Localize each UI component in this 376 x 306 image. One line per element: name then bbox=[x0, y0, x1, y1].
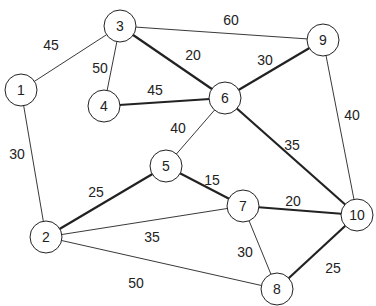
node-3: 3 bbox=[104, 10, 136, 42]
edge-weight-label: 35 bbox=[144, 229, 160, 245]
node-label: 1 bbox=[17, 82, 25, 98]
node-7: 7 bbox=[227, 190, 259, 222]
node-10: 10 bbox=[341, 199, 373, 231]
edge-4-6 bbox=[104, 98, 225, 106]
node-6: 6 bbox=[209, 82, 241, 114]
edge-weight-label: 30 bbox=[9, 146, 25, 162]
edge-weight-label: 30 bbox=[257, 52, 273, 68]
edge-weight-label: 40 bbox=[344, 107, 360, 123]
edge-6-9 bbox=[225, 40, 323, 98]
node-4: 4 bbox=[88, 90, 120, 122]
edge-weight-label: 50 bbox=[128, 275, 144, 291]
edge-weight-label: 45 bbox=[147, 82, 163, 98]
edge-weight-label: 15 bbox=[204, 172, 220, 188]
edge-labels-layer: 4530506020453040354025153550203025 bbox=[9, 12, 360, 291]
node-label: 9 bbox=[319, 32, 327, 48]
node-label: 2 bbox=[42, 229, 50, 245]
edge-weight-label: 50 bbox=[92, 60, 108, 76]
edge-3-9 bbox=[120, 26, 323, 40]
edge-weight-label: 60 bbox=[223, 12, 239, 28]
node-8: 8 bbox=[261, 273, 293, 305]
edge-weight-label: 20 bbox=[185, 47, 201, 63]
node-label: 8 bbox=[273, 281, 281, 297]
node-label: 5 bbox=[162, 158, 170, 174]
edges-layer bbox=[21, 26, 357, 289]
edge-1-3 bbox=[21, 26, 120, 90]
edge-3-6 bbox=[120, 26, 225, 98]
edge-1-2 bbox=[21, 90, 46, 237]
edge-weight-label: 30 bbox=[237, 244, 253, 260]
graph-canvas: 4530506020453040354025153550203025 12345… bbox=[0, 0, 376, 306]
edge-weight-label: 25 bbox=[325, 260, 341, 276]
node-label: 3 bbox=[116, 18, 124, 34]
edge-2-5 bbox=[46, 166, 166, 237]
node-9: 9 bbox=[307, 24, 339, 56]
node-5: 5 bbox=[150, 150, 182, 182]
node-2: 2 bbox=[30, 221, 62, 253]
node-label: 7 bbox=[239, 198, 247, 214]
node-label: 6 bbox=[221, 90, 229, 106]
node-label: 4 bbox=[100, 98, 108, 114]
graph-diagram: 4530506020453040354025153550203025 12345… bbox=[0, 0, 376, 306]
edge-weight-label: 45 bbox=[43, 37, 59, 53]
edge-weight-label: 20 bbox=[285, 193, 301, 209]
node-label: 10 bbox=[349, 207, 365, 223]
node-1: 1 bbox=[5, 74, 37, 106]
edge-weight-label: 25 bbox=[88, 184, 104, 200]
edge-weight-label: 40 bbox=[170, 120, 186, 136]
edge-weight-label: 35 bbox=[284, 137, 300, 153]
